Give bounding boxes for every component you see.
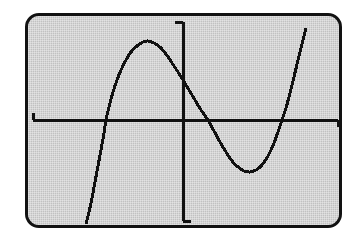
calculator-screen-frame xyxy=(25,13,342,228)
graph-plot-area[interactable] xyxy=(28,16,339,225)
plotted-curve-group xyxy=(86,28,306,224)
x-axis xyxy=(33,113,338,127)
cubic-curve xyxy=(86,28,306,224)
screenshot-root xyxy=(0,0,364,242)
